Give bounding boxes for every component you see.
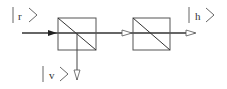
input-arrow-icon bbox=[48, 30, 57, 36]
reflected-arrow-icon bbox=[74, 70, 80, 80]
optical-diagram: r h v bbox=[0, 0, 227, 89]
ket-label-reflected: v bbox=[43, 66, 68, 82]
mid-arrow-icon bbox=[122, 30, 132, 36]
output-arrow-icon bbox=[186, 30, 196, 36]
beam-splitter-2 bbox=[133, 18, 170, 50]
ket-label-input: r bbox=[13, 7, 37, 23]
reflected-state-label: v bbox=[49, 69, 55, 81]
transmitted-state-label: h bbox=[195, 10, 201, 22]
input-state-label: r bbox=[18, 10, 22, 22]
ket-label-transmitted: h bbox=[189, 7, 214, 23]
